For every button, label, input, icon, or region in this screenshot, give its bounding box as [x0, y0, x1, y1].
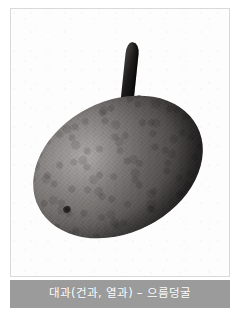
photo-stage — [11, 9, 229, 276]
specimen-photo — [11, 9, 230, 277]
figure-page: 대과(건과, 열과) – 으름덩굴 — [0, 0, 241, 320]
caption-label: 대과(건과, 열과) – 으름덩굴 — [49, 288, 192, 300]
fruit-shading — [10, 68, 227, 266]
caption-bar: 대과(건과, 열과) – 으름덩굴 — [10, 280, 230, 308]
photo-frame — [10, 8, 230, 277]
fruit-body — [10, 68, 227, 266]
